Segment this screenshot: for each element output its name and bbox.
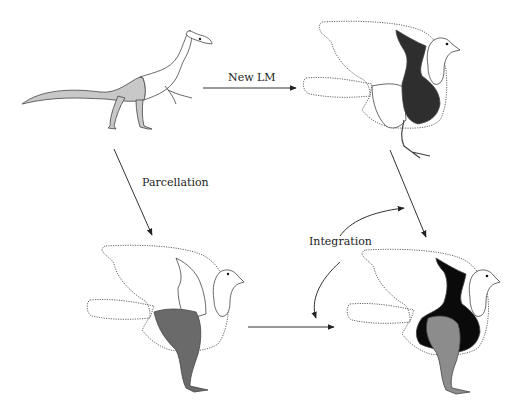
dinosaur-shaded-module (22, 77, 145, 104)
arrow-new-lm: New LM (203, 71, 296, 88)
dinosaur-forelimb (165, 86, 192, 104)
diagram-canvas: New LM Parcellation Integration (0, 0, 520, 401)
dinosaur-body (140, 30, 192, 100)
tail-outline (303, 77, 372, 97)
arrow-newlm-to-integration (390, 150, 426, 237)
arrow-parcellation: Parcellation (114, 149, 209, 235)
bird-parcellation (87, 245, 244, 392)
new-lm-label: New LM (228, 71, 276, 84)
dinosaur-hind-leg-left (108, 96, 125, 129)
bird-eye (446, 43, 449, 46)
bird-neck-head (469, 270, 500, 316)
tail-outline (347, 303, 414, 323)
bird-leg (402, 120, 430, 158)
bird-body-white (372, 84, 406, 128)
bird-integration (347, 249, 500, 394)
ancestral-dinosaur (22, 30, 212, 129)
dinosaur-hind-leg-right (136, 100, 152, 129)
bird-neck-head (427, 38, 460, 84)
bird-neck-head (213, 270, 244, 316)
tail-outline (87, 299, 154, 319)
bird-new-lm (303, 21, 460, 158)
integration-arrows: Integration (309, 208, 404, 318)
integration-label: Integration (309, 235, 372, 248)
parcellation-label: Parcellation (142, 176, 209, 189)
